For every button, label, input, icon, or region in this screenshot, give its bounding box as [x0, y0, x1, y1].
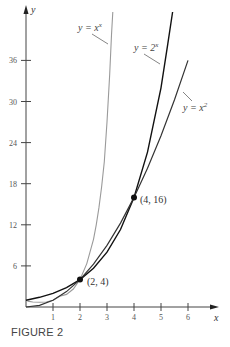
point-label-4-16: (4, 16): [140, 194, 167, 206]
leader-x-to-the-x: [92, 34, 108, 44]
y-tick-36: 36: [9, 56, 17, 65]
label-2-to-the-x: y = 2x: [133, 41, 159, 53]
y-axis-arrow-icon: [24, 5, 29, 14]
y-tick-18: 18: [9, 180, 17, 189]
label-x-squared: y = x2: [182, 101, 208, 113]
curve-x-squared: [26, 60, 188, 307]
point-2-4: [77, 277, 83, 283]
label-x-to-the-x: y = xx: [77, 21, 103, 33]
y-tick-12: 12: [9, 221, 17, 230]
figure-caption: FIGURE 2: [11, 326, 63, 338]
curve-x-to-the-x: [27, 12, 112, 302]
leader-x-squared: [183, 92, 192, 101]
figure-chart: y x 1 2 3 4 5 6 6 12 18 24 30 36 (2, 4) …: [0, 0, 230, 347]
y-tick-24: 24: [9, 139, 17, 148]
leader-2-to-the-x: [144, 54, 160, 64]
x-axis-arrow-icon: [210, 305, 219, 310]
y-tick-6: 6: [13, 262, 17, 271]
x-tick-3: 3: [105, 313, 109, 322]
y-axis-label: y: [30, 4, 36, 15]
y-tick-30: 30: [9, 98, 17, 107]
x-tick-5: 5: [159, 313, 163, 322]
point-4-16: [131, 194, 137, 200]
point-label-2-4: (2, 4): [87, 276, 109, 288]
x-axis-label: x: [213, 312, 219, 323]
x-tick-4: 4: [132, 313, 136, 322]
x-tick-1: 1: [51, 313, 55, 322]
x-tick-2: 2: [78, 313, 82, 322]
x-tick-6: 6: [186, 313, 190, 322]
